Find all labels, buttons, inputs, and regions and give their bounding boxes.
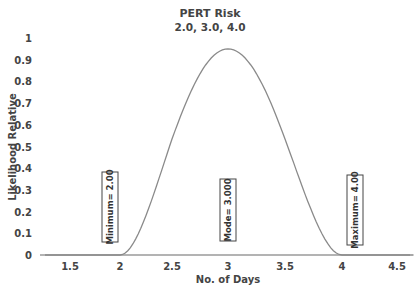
y-tick-label: 1	[25, 33, 32, 44]
y-tick-label: 0.9	[14, 55, 32, 66]
x-tick-label: 4	[339, 261, 346, 272]
x-axis-ticks: 1.522.533.544.5	[61, 261, 406, 272]
y-tick-label: 0.2	[14, 207, 32, 218]
chart-title: PERT Risk	[180, 7, 242, 20]
y-axis-label: Likelihood Relative	[7, 93, 18, 201]
x-tick-label: 3	[225, 261, 232, 272]
x-tick-label: 2.5	[163, 261, 181, 272]
y-tick-label: 0.1	[14, 228, 32, 239]
y-tick-label: 0	[25, 250, 32, 261]
y-tick-label: 0.8	[14, 76, 32, 87]
x-tick-label: 2	[117, 261, 124, 272]
x-tick-label: 1.5	[61, 261, 79, 272]
x-tick-label: 4.5	[388, 261, 406, 272]
annotation-box: Maximum= 4.00	[347, 171, 363, 248]
annotation-box: Minimum= 2.00	[102, 169, 118, 244]
annotation-box: Mode= 3.000	[220, 178, 236, 241]
chart-subtitle: 2.0, 3.0, 4.0	[174, 21, 245, 33]
annotation-label: Minimum= 2.00	[105, 169, 115, 244]
annotation-label: Mode= 3.000	[223, 178, 233, 241]
x-axis-label: No. of Days	[196, 274, 260, 285]
annotation-label: Maximum= 4.00	[350, 171, 360, 248]
x-tick-label: 3.5	[276, 261, 294, 272]
pert-chart: PERT Risk 2.0, 3.0, 4.0 00.10.20.30.40.5…	[0, 0, 418, 290]
